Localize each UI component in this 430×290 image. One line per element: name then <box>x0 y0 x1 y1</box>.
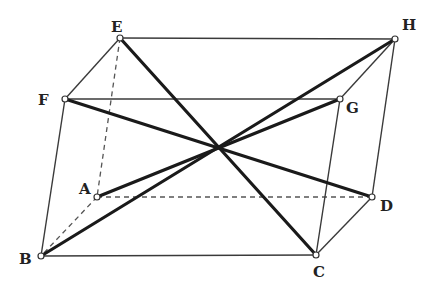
vertex-G <box>337 96 343 102</box>
vertex-F <box>62 96 68 102</box>
vertex-D <box>369 194 375 200</box>
edge-GC <box>316 99 340 255</box>
vertex-C <box>313 252 319 258</box>
vertex-label-C: C <box>313 263 325 281</box>
edge-CB <box>41 255 316 256</box>
diagonal-GA <box>97 99 340 197</box>
parallelepiped-diagram: ABCDEFGH <box>0 0 430 290</box>
vertex-label-F: F <box>38 91 49 109</box>
vertex-label-A: A <box>78 180 91 198</box>
vertex-A <box>94 194 100 200</box>
vertex-label-G: G <box>346 99 359 117</box>
vertex-label-E: E <box>111 18 122 36</box>
edge-HD <box>372 39 395 197</box>
vertex-label-H: H <box>402 16 416 34</box>
vertex-label-D: D <box>380 197 393 215</box>
space-diagonals <box>41 38 395 256</box>
vertex-B <box>38 253 44 259</box>
hidden-edge-EA <box>97 38 120 197</box>
vertex-label-B: B <box>19 250 32 268</box>
edge-FE <box>65 38 120 99</box>
edge-DC <box>316 197 372 255</box>
edge-EH <box>120 38 395 39</box>
vertex-H <box>392 36 398 42</box>
edge-FB <box>41 99 65 256</box>
